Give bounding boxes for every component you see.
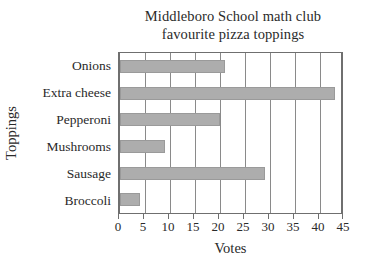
x-axis-tick-label: 25 <box>237 219 250 235</box>
bar <box>120 193 140 206</box>
x-axis-tick-label: 20 <box>212 219 225 235</box>
x-axis-tick-labels: 051015202530354045 <box>118 219 343 237</box>
bar-row <box>120 106 341 133</box>
y-axis-tick-label: Pepperoni <box>20 106 115 133</box>
y-axis-tick-label: Sausage <box>20 160 115 187</box>
x-axis-tick-label: 0 <box>115 219 122 235</box>
x-axis-tick-label: 5 <box>140 219 147 235</box>
x-axis-tick-label: 15 <box>187 219 200 235</box>
y-axis-title: Toppings <box>0 52 22 214</box>
y-axis-tick-labels: OnionsExtra cheesePepperoniMushroomsSaus… <box>20 52 115 214</box>
bar <box>120 60 225 73</box>
y-axis-tick-label: Mushrooms <box>20 133 115 160</box>
plot-area <box>118 52 343 214</box>
y-axis-tick-label: Broccoli <box>20 187 115 214</box>
bar <box>120 87 335 100</box>
bar-row <box>120 133 341 160</box>
x-axis-tick-label: 35 <box>287 219 300 235</box>
x-axis-title: Votes <box>118 240 343 257</box>
chart-title-line-2: favourite pizza toppings <box>110 25 356 43</box>
y-axis-tick-label: Onions <box>20 52 115 79</box>
chart-title-line-1: Middleboro School math club <box>110 7 356 25</box>
bar <box>120 113 220 126</box>
bar <box>120 140 165 153</box>
bar-row <box>120 53 341 80</box>
bar-row <box>120 80 341 107</box>
chart-title: Middleboro School math club favourite pi… <box>110 7 356 43</box>
y-axis-tick-label: Extra cheese <box>20 79 115 106</box>
bar-row <box>120 186 341 213</box>
bar-chart: Middleboro School math club favourite pi… <box>0 0 366 275</box>
x-axis-tick-label: 10 <box>162 219 175 235</box>
x-axis-tick-label: 45 <box>337 219 350 235</box>
x-axis-tick-label: 40 <box>312 219 325 235</box>
bar <box>120 167 265 180</box>
bar-row <box>120 160 341 187</box>
bar-series <box>120 53 341 213</box>
x-axis-tick-label: 30 <box>262 219 275 235</box>
